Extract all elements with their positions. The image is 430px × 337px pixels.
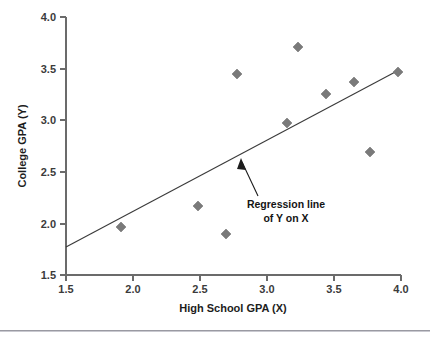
x-tick-label-3-0: 3.0 xyxy=(259,283,274,295)
data-point-marker xyxy=(221,229,231,239)
x-tick-label-4-0: 4.0 xyxy=(393,283,408,295)
data-point-marker xyxy=(293,42,303,52)
scatter-plot-figure: 4.0 3.5 3.0 2.5 2.0 1.5 1.5 2.0 2.5 3.0 … xyxy=(0,0,430,337)
y-tick-label-2-5: 2.5 xyxy=(41,166,56,178)
y-tick-label-3-5: 3.5 xyxy=(41,63,56,75)
data-point-marker xyxy=(232,69,242,79)
y-tick-label-4-0: 4.0 xyxy=(41,11,56,23)
y-axis-title: College GPA (Y) xyxy=(16,104,28,187)
y-tick-label-2-0: 2.0 xyxy=(41,218,56,230)
x-tick-label-1-5: 1.5 xyxy=(58,283,73,295)
chart-canvas: 4.0 3.5 3.0 2.5 2.0 1.5 1.5 2.0 2.5 3.0 … xyxy=(0,0,430,337)
page-bottom-rule-shadow xyxy=(0,331,430,332)
x-tick-label-2-5: 2.5 xyxy=(192,283,207,295)
data-point-marker xyxy=(282,118,292,128)
x-axis-title: High School GPA (X) xyxy=(179,302,287,314)
data-point-marker xyxy=(193,201,203,211)
annotation-label-line2: of Y on X xyxy=(263,212,308,224)
annotation-arrow-head-icon xyxy=(237,158,246,170)
data-point-marker xyxy=(393,67,403,77)
x-tick-label-3-5: 3.5 xyxy=(326,283,341,295)
y-tick-label-1-5: 1.5 xyxy=(41,269,56,281)
data-point-marker xyxy=(365,147,375,157)
annotation-label-line1: Regression line xyxy=(247,198,325,210)
data-point-marker xyxy=(349,77,359,87)
regression-line xyxy=(66,70,399,247)
y-tick-label-3-0: 3.0 xyxy=(41,114,56,126)
data-point-marker xyxy=(116,222,126,232)
x-tick-label-2-0: 2.0 xyxy=(125,283,140,295)
data-point-marker xyxy=(321,89,331,99)
